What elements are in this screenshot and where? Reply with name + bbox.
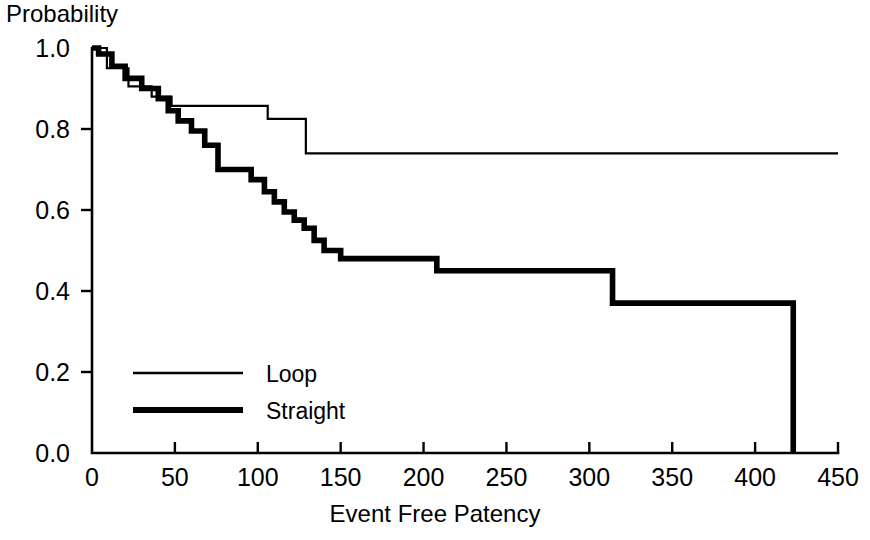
- plot-axes: [92, 48, 838, 453]
- x-tick-label: 300: [568, 463, 610, 491]
- x-tick-label: 150: [320, 463, 362, 491]
- survival-curves: [92, 48, 838, 453]
- x-tick-label: 250: [486, 463, 528, 491]
- legend-label-straight: Straight: [266, 398, 346, 424]
- y-axis-tick-marks: [81, 129, 92, 372]
- kaplan-meier-chart: Probability 0.00.20.40.60.81.0 050100150…: [0, 0, 870, 540]
- y-tick-label: 0.4: [35, 277, 70, 305]
- y-tick-label: 0.6: [35, 196, 70, 224]
- x-tick-label: 350: [651, 463, 693, 491]
- chart-canvas: Probability 0.00.20.40.60.81.0 050100150…: [0, 0, 870, 540]
- x-tick-label: 50: [161, 463, 189, 491]
- x-axis-tick-marks: [175, 442, 838, 453]
- y-tick-label: 0.8: [35, 115, 70, 143]
- x-axis-title: Event Free Patency: [330, 500, 541, 527]
- y-tick-label: 0.0: [35, 439, 70, 467]
- x-tick-label: 0: [85, 463, 99, 491]
- y-axis-title: Probability: [6, 0, 118, 27]
- x-axis-tick-labels: 050100150200250300350400450: [85, 463, 859, 491]
- y-axis-tick-labels: 0.00.20.40.60.81.0: [35, 34, 70, 467]
- x-tick-label: 100: [237, 463, 279, 491]
- y-tick-label: 1.0: [35, 34, 70, 62]
- chart-legend: LoopStraight: [133, 361, 346, 424]
- y-tick-label: 0.2: [35, 358, 70, 386]
- x-tick-label: 450: [817, 463, 859, 491]
- x-tick-label: 400: [734, 463, 776, 491]
- legend-label-loop: Loop: [266, 361, 317, 387]
- curve-straight: [92, 48, 793, 453]
- x-tick-label: 200: [403, 463, 445, 491]
